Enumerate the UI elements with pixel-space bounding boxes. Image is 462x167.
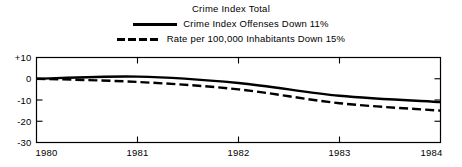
axis-tick-marks: [37, 58, 441, 143]
plot-area: +100-10-20-30 19801981198219831984: [0, 0, 462, 167]
x-tick-label: 1983: [329, 147, 351, 158]
y-tick-label: -30: [17, 137, 31, 148]
axis-frame: [37, 58, 441, 143]
x-tick-label: 1984: [421, 147, 443, 158]
y-axis-tick-labels: +100-10-20-30: [15, 52, 32, 148]
y-tick-label: +10: [15, 52, 32, 63]
data-series-lines: [37, 77, 441, 111]
crime-index-chart: Crime Index Total Crime Index Offenses D…: [0, 0, 462, 167]
y-tick-label: 0: [26, 73, 31, 84]
y-tick-label: -10: [17, 95, 31, 106]
x-tick-label: 1982: [228, 147, 250, 158]
x-tick-label: 1981: [127, 147, 149, 158]
plot-border: [37, 58, 441, 143]
plot-svg: +100-10-20-30 19801981198219831984: [0, 0, 462, 167]
x-axis-tick-labels: 19801981198219831984: [36, 147, 443, 158]
y-tick-label: -20: [17, 116, 31, 127]
x-tick-label: 1980: [36, 147, 58, 158]
